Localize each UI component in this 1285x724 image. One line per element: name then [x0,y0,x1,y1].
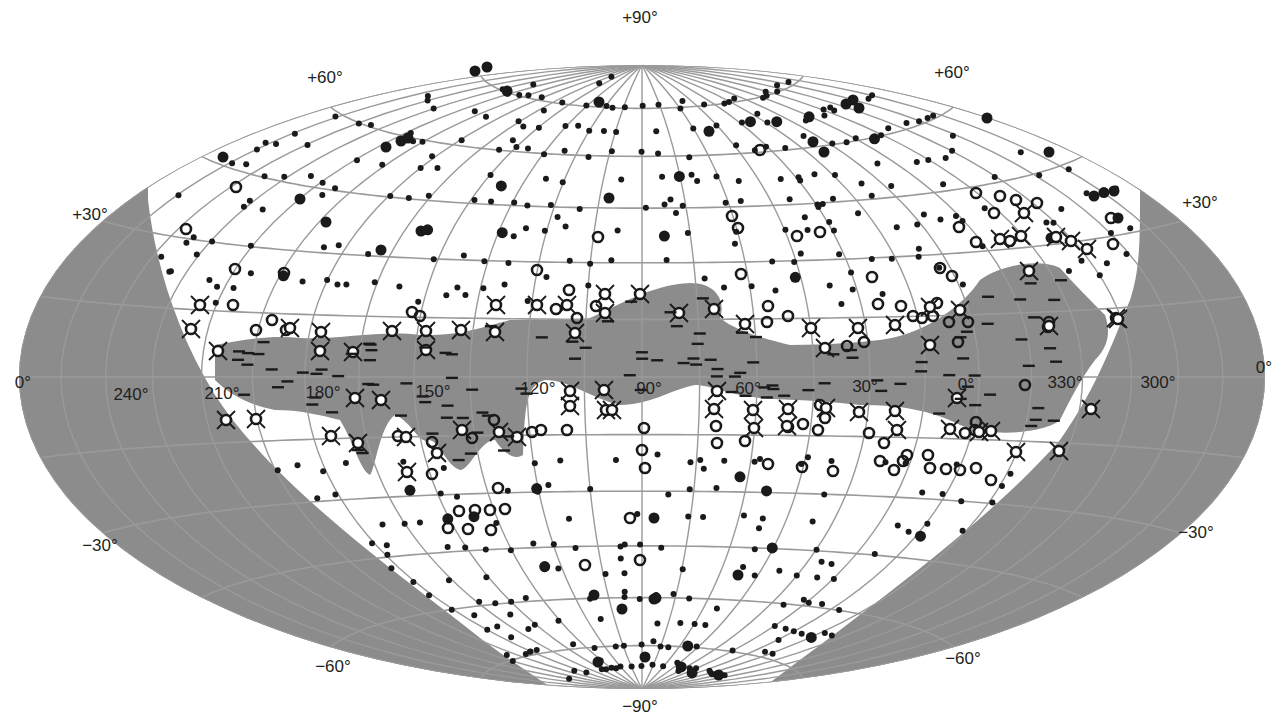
source-dot-icon [379,521,385,527]
source-dash-icon [1048,299,1060,301]
source-dash-icon [252,353,264,355]
source-dot-icon [281,174,287,180]
source-crossed-circle-icon [453,421,471,439]
source-dot-icon [320,468,326,474]
source-dot-icon [655,451,661,457]
source-crossed-circle-icon [596,304,614,322]
source-crossed-circle-icon [490,423,508,441]
source-dot-icon [505,260,511,266]
source-dot-icon [687,459,693,465]
source-dash-icon [346,353,358,355]
source-dot-icon [445,544,451,550]
source-crossed-circle-icon [1007,443,1025,461]
longitude-label-30: 30° [852,377,878,397]
source-dot-icon [324,277,330,283]
source-dash-icon [712,368,724,370]
source-dot-icon [872,551,878,557]
source-dot-icon [650,638,656,644]
source-dash-icon [705,359,717,361]
source-dash-icon [485,325,497,327]
source-dash-icon [326,411,338,413]
source-dot-icon [601,128,607,134]
source-dot-icon [621,643,627,649]
source-dot-icon [206,277,212,283]
source-dot-icon [670,591,676,597]
source-dot-icon [829,140,835,146]
source-dot-icon [539,561,550,572]
source-dot-icon [637,542,643,548]
source-dash-icon [352,449,364,451]
source-dot-icon [542,228,548,234]
source-dash-icon [916,361,928,363]
source-dot-icon [869,193,875,199]
source-dot-icon [940,491,946,497]
source-dot-icon [396,284,402,290]
source-dot-icon [482,62,493,73]
source-dot-icon [814,547,820,553]
source-dash-icon [1050,360,1062,362]
source-dot-icon [829,458,835,464]
longitude-label-180: 180° [305,383,340,403]
source-dot-icon [488,172,494,178]
source-crossed-circle-icon [941,420,959,438]
source-dash-icon [232,359,244,361]
source-crossed-circle-icon [745,419,763,437]
source-dot-icon [930,113,936,119]
source-dot-icon [694,178,700,184]
source-dot-icon [618,556,624,562]
source-dot-icon [596,80,602,86]
source-dot-icon [321,217,332,228]
latitude-label-minus-30-right: −30° [1178,523,1214,543]
source-dot-icon [543,176,549,182]
source-dot-icon [372,279,378,285]
source-dot-icon [794,572,800,578]
source-dot-icon [888,183,894,189]
source-dash-icon [1032,407,1044,409]
source-dash-icon [982,296,994,298]
source-dot-icon [1098,187,1109,198]
source-dot-icon [429,153,435,159]
source-dot-icon [801,597,807,603]
source-dot-icon [480,285,486,291]
source-dot-icon [745,116,756,127]
source-dot-icon [1097,272,1103,278]
source-dot-icon [680,566,686,572]
source-dash-icon [536,336,548,338]
source-dot-icon [827,282,833,288]
source-dot-icon [674,171,685,182]
source-dot-icon [821,106,827,112]
source-dot-icon [914,222,920,228]
source-dot-icon [496,180,507,191]
source-crossed-circle-icon [705,400,723,418]
source-dot-icon [721,458,727,464]
source-dot-icon [677,106,683,112]
source-dash-icon [441,417,453,419]
source-dot-icon [431,106,437,112]
source-dot-icon [1127,225,1133,231]
source-dot-icon [183,240,189,246]
source-dot-icon [660,663,666,669]
source-dot-icon [573,545,579,551]
source-dot-icon [218,152,229,163]
source-dot-icon [885,125,891,131]
source-dot-icon [617,663,623,669]
source-dash-icon [697,297,709,299]
source-dash-icon [692,343,704,345]
source-crossed-circle-icon [921,298,939,316]
source-dot-icon [415,299,421,305]
source-dot-icon [562,148,568,154]
source-dot-icon [1058,206,1064,212]
source-dot-icon [555,618,561,624]
source-dot-icon [321,244,327,250]
source-dot-icon [810,519,816,525]
source-dash-icon [636,351,648,353]
source-dot-icon [593,657,604,668]
source-dot-icon [400,459,406,465]
source-dot-icon [687,486,693,492]
source-dot-icon [545,482,551,488]
source-dot-icon [594,97,605,108]
source-dot-icon [675,668,681,674]
source-dot-icon [527,649,533,655]
source-dot-icon [680,203,686,209]
source-crossed-circle-icon [561,397,579,415]
